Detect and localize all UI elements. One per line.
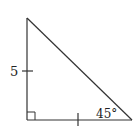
triangle: [27, 18, 132, 120]
hypotenuse: [27, 18, 132, 120]
right-angle-marker: [27, 112, 35, 120]
right-triangle-diagram: 5 45°: [0, 0, 134, 135]
angle-label-bottom-right: 45°: [96, 107, 117, 121]
side-label-vertical-leg: 5: [10, 64, 18, 79]
